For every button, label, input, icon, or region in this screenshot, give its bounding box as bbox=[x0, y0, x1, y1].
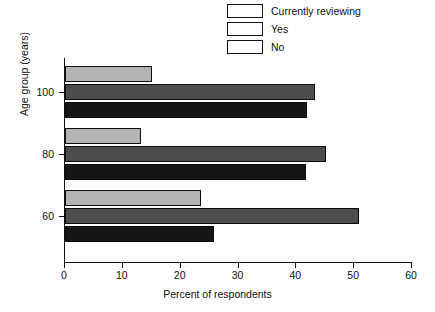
bar-100-no bbox=[65, 102, 307, 118]
x-tick-label-20: 20 bbox=[174, 269, 186, 281]
x-tick-label-10: 10 bbox=[116, 269, 128, 281]
y-tick-60 bbox=[59, 216, 64, 217]
x-tick-20 bbox=[180, 263, 181, 268]
bar-100-currently-reviewing bbox=[65, 66, 152, 82]
x-tick-label-0: 0 bbox=[61, 269, 67, 281]
y-axis-title: Age group (years) bbox=[18, 0, 30, 164]
bar-60-currently-reviewing bbox=[65, 190, 201, 206]
legend-label-currently-reviewing: Currently reviewing bbox=[271, 4, 361, 18]
bar-80-currently-reviewing bbox=[65, 128, 141, 144]
bar-60-yes bbox=[65, 208, 359, 224]
bar-80-no bbox=[65, 164, 306, 180]
legend-item-yes: Yes bbox=[227, 21, 361, 36]
x-tick-label-60: 60 bbox=[405, 269, 417, 281]
legend-label-yes: Yes bbox=[271, 22, 288, 36]
chart-legend: Currently reviewing Yes No bbox=[227, 3, 361, 54]
bar-60-no bbox=[65, 226, 214, 242]
bar-80-yes bbox=[65, 146, 326, 162]
bar-100-yes bbox=[65, 84, 315, 100]
legend-item-no: No bbox=[227, 39, 361, 54]
x-tick-label-40: 40 bbox=[289, 269, 301, 281]
x-tick-10 bbox=[122, 263, 123, 268]
plot-area: 0102030405060 6080100 bbox=[64, 58, 411, 263]
y-tick-100 bbox=[59, 92, 64, 93]
legend-swatch-currently-reviewing-icon bbox=[227, 4, 263, 18]
x-tick-50 bbox=[353, 263, 354, 268]
legend-swatch-no-icon bbox=[227, 40, 263, 54]
legend-label-no: No bbox=[271, 40, 284, 54]
legend-swatch-yes-icon bbox=[227, 22, 263, 36]
y-tick-80 bbox=[59, 154, 64, 155]
legend-item-currently-reviewing: Currently reviewing bbox=[227, 3, 361, 18]
x-axis-title: Percent of respondents bbox=[0, 288, 435, 300]
x-tick-40 bbox=[295, 263, 296, 268]
x-tick-label-30: 30 bbox=[232, 269, 244, 281]
x-tick-30 bbox=[238, 263, 239, 268]
x-tick-60 bbox=[411, 263, 412, 268]
y-tick-label-60: 60 bbox=[14, 210, 54, 222]
x-tick-0 bbox=[64, 263, 65, 268]
x-tick-label-50: 50 bbox=[347, 269, 359, 281]
